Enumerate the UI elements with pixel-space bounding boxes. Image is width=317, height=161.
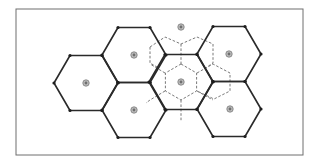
vertex-dot [100, 108, 103, 111]
vertex-dot [147, 80, 150, 83]
vertex-dot [68, 54, 71, 57]
vertex-dot [259, 52, 262, 55]
site-top-marker-icon [178, 24, 184, 30]
vertex-dot [211, 80, 214, 83]
vertex-dot [116, 136, 119, 139]
vertex-dot [211, 25, 214, 28]
vertex-dot [243, 135, 246, 138]
vertex-dot [195, 107, 198, 110]
site-center-marker-icon [178, 79, 184, 85]
vertex-dot [243, 80, 246, 83]
vertex-dot [116, 26, 119, 29]
vertex-dot [116, 81, 119, 84]
vertex-dot [163, 53, 166, 56]
site-lower-mid-marker-icon [131, 107, 137, 113]
vertex-dot [52, 81, 55, 84]
dashed-boundary-1 [150, 47, 157, 67]
vertex-dot [148, 136, 151, 139]
vertex-dot [148, 26, 151, 29]
dashed-boundary-2 [207, 44, 213, 67]
vertex-dot [243, 25, 246, 28]
site-upper-right-marker-icon [226, 51, 232, 57]
vertex-dot [195, 52, 198, 55]
site-upper-mid-marker-icon [131, 52, 137, 58]
vertex-dot [100, 53, 103, 56]
site-left-marker-icon [83, 80, 89, 86]
vertex-dot [163, 108, 166, 111]
hexagon-cell-diagram [0, 0, 317, 161]
vertex-dot [211, 135, 214, 138]
dashed-voronoi-overlay [146, 37, 230, 121]
vertex-dot [68, 109, 71, 112]
diagram-frame [16, 9, 303, 155]
site-lower-right-marker-icon [227, 106, 233, 112]
vertex-dot [259, 107, 262, 110]
